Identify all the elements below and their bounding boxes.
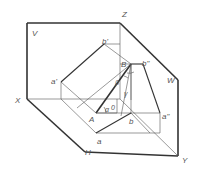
projection-box	[61, 44, 160, 133]
label-point-a: A	[88, 115, 94, 124]
label-v-plane: V	[32, 29, 38, 38]
label-alpha: α	[105, 106, 110, 113]
label-a: a	[97, 137, 102, 146]
projection-lines	[61, 44, 160, 133]
label-h-plane: H	[85, 148, 91, 157]
h-plane	[27, 99, 178, 156]
label-zero: 0	[111, 104, 115, 111]
label-x-axis: X	[14, 96, 21, 105]
label-beta: β	[114, 79, 119, 87]
label-b: b	[129, 117, 134, 126]
top-projection-a-b	[96, 113, 131, 133]
label-gamma: γ	[124, 90, 128, 98]
label-a-double: a"	[162, 112, 170, 121]
label-y-axis: Y	[182, 156, 188, 165]
label-point-b: B	[121, 60, 127, 69]
side-projection-a-b	[143, 64, 160, 113]
label-b-prime: b'	[102, 37, 108, 46]
label-b-double: b"	[142, 59, 150, 68]
projection-diagram: V Z W X H Y a' b' b" a" B A a b β γ α 0	[0, 0, 200, 170]
w-plane	[120, 23, 178, 156]
v-plane	[27, 23, 120, 99]
front-projection-a-b	[61, 44, 104, 82]
label-z-axis: Z	[121, 10, 128, 19]
label-a-prime: a'	[51, 77, 57, 86]
